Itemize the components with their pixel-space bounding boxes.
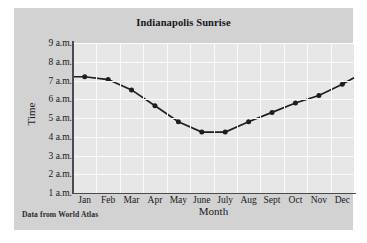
- gridline-vertical: [143, 43, 144, 193]
- x-tick-label: May: [170, 195, 187, 205]
- x-tick-label: Sept: [264, 195, 281, 205]
- gridline-vertical: [167, 43, 168, 193]
- gridline-vertical: [307, 43, 308, 193]
- data-point-marker: [270, 110, 275, 115]
- source-note: Data from World Atlas: [22, 210, 98, 219]
- y-tick-label: 2 a.m.: [26, 169, 72, 179]
- data-point-marker: [223, 130, 228, 135]
- gridline-vertical: [190, 43, 191, 193]
- x-tick-label: Oct: [289, 195, 303, 205]
- data-point-marker: [82, 74, 87, 79]
- gridline-vertical: [214, 43, 215, 193]
- x-tick-label: Mar: [124, 195, 140, 205]
- gridline-vertical: [284, 43, 285, 193]
- x-tick-label: Feb: [101, 195, 115, 205]
- y-tick-label: 9 a.m.: [26, 38, 72, 48]
- gridline-vertical: [331, 43, 332, 193]
- y-tick-label: 8 a.m.: [26, 57, 72, 67]
- x-axis-line: [72, 193, 356, 195]
- x-tick-label: Nov: [311, 195, 327, 205]
- x-axis-title: Month: [73, 205, 354, 217]
- data-point-marker: [316, 93, 321, 98]
- x-tick-label: Aug: [240, 195, 256, 205]
- gridline-vertical: [260, 43, 261, 193]
- x-tick-label: June: [193, 195, 210, 205]
- data-point-marker: [293, 101, 298, 106]
- x-tick-label: Apr: [148, 195, 163, 205]
- gridline-vertical: [96, 43, 97, 193]
- data-point-marker: [129, 87, 134, 92]
- data-point-marker: [246, 119, 251, 124]
- data-point-marker: [176, 119, 181, 124]
- chart-figure: Indianapolis Sunrise 1 a.m.2 a.m.3 a.m.4…: [14, 8, 353, 230]
- gridline-vertical: [237, 43, 238, 193]
- y-tick-label: 3 a.m.: [26, 151, 72, 161]
- data-point-marker: [340, 82, 345, 87]
- gridline-vertical: [120, 43, 121, 193]
- y-axis-title: Time: [25, 84, 37, 144]
- x-tick-label: Dec: [335, 195, 350, 205]
- plot-area: [73, 43, 354, 193]
- x-tick-label: Jan: [78, 195, 91, 205]
- y-tick-label: 1 a.m.: [26, 188, 72, 198]
- data-point-marker: [199, 130, 204, 135]
- data-point-marker: [152, 103, 157, 108]
- y-axis-line: [72, 41, 74, 194]
- x-tick-label: July: [217, 195, 233, 205]
